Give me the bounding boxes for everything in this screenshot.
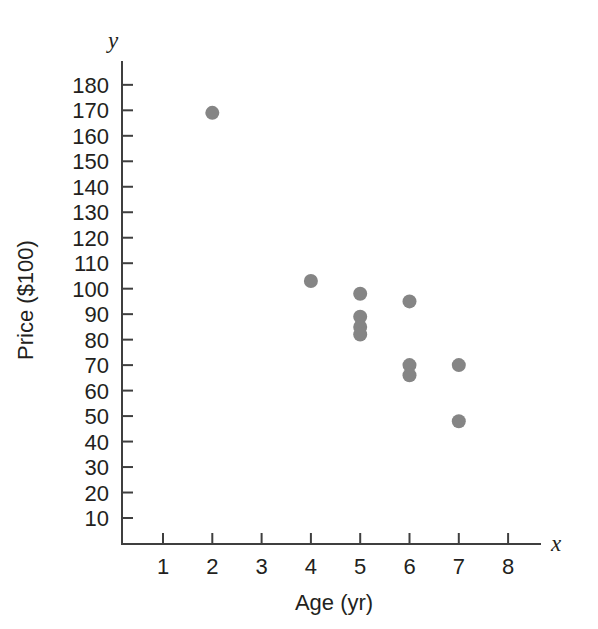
x-tick-label: 7 bbox=[453, 554, 465, 579]
x-axis-ticks bbox=[163, 533, 508, 544]
y-axis-variable-name: y bbox=[106, 28, 119, 53]
y-tick-label: 180 bbox=[72, 73, 109, 98]
y-tick-label: 90 bbox=[85, 302, 109, 327]
y-axis-tick-labels: 1020304050607080901001101201301401501601… bbox=[72, 73, 109, 531]
x-tick-label: 4 bbox=[305, 554, 317, 579]
y-tick-label: 20 bbox=[85, 481, 109, 506]
y-tick-label: 30 bbox=[85, 455, 109, 480]
y-axis-ticks bbox=[122, 85, 133, 518]
y-tick-label: 160 bbox=[72, 124, 109, 149]
y-tick-label: 40 bbox=[85, 430, 109, 455]
x-tick-label: 2 bbox=[206, 554, 218, 579]
x-tick-label: 1 bbox=[157, 554, 169, 579]
data-point bbox=[353, 287, 367, 301]
x-tick-label: 3 bbox=[255, 554, 267, 579]
y-tick-label: 150 bbox=[72, 149, 109, 174]
x-tick-label: 8 bbox=[502, 554, 514, 579]
x-axis-tick-labels: 12345678 bbox=[157, 554, 514, 579]
x-tick-label: 5 bbox=[354, 554, 366, 579]
axes bbox=[122, 62, 540, 544]
y-tick-label: 130 bbox=[72, 200, 109, 225]
y-tick-label: 120 bbox=[72, 226, 109, 251]
y-tick-label: 70 bbox=[85, 353, 109, 378]
y-axis-title: Price ($100) bbox=[13, 240, 38, 360]
data-point bbox=[205, 106, 219, 120]
y-tick-label: 100 bbox=[72, 277, 109, 302]
y-tick-label: 80 bbox=[85, 328, 109, 353]
plot-canvas: 1020304050607080901001101201301401501601… bbox=[0, 0, 598, 629]
y-tick-label: 140 bbox=[72, 175, 109, 200]
data-point bbox=[403, 368, 417, 382]
y-tick-label: 170 bbox=[72, 98, 109, 123]
data-points-group bbox=[205, 106, 466, 428]
data-point bbox=[403, 294, 417, 308]
x-axis-variable-name: x bbox=[550, 531, 562, 556]
x-tick-label: 6 bbox=[403, 554, 415, 579]
data-point bbox=[452, 414, 466, 428]
y-tick-label: 10 bbox=[85, 506, 109, 531]
data-point bbox=[353, 328, 367, 342]
y-tick-label: 110 bbox=[74, 251, 109, 276]
y-tick-label: 60 bbox=[85, 379, 109, 404]
data-point bbox=[304, 274, 318, 288]
y-tick-label: 50 bbox=[85, 404, 109, 429]
data-point bbox=[452, 358, 466, 372]
x-axis-title: Age (yr) bbox=[295, 590, 373, 615]
scatter-plot-figure: 1020304050607080901001101201301401501601… bbox=[0, 0, 598, 629]
